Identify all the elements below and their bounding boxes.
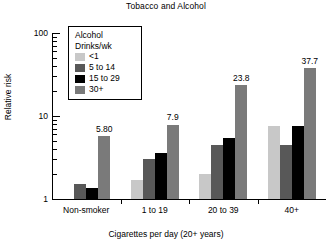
legend-item: 15 to 29 bbox=[75, 73, 141, 84]
bar bbox=[143, 159, 155, 199]
bar bbox=[211, 145, 223, 199]
chart-title: Tobacco and Alcohol bbox=[0, 1, 332, 11]
legend-title-line2: Drinks/wk bbox=[75, 41, 141, 52]
legend-item: 30+ bbox=[75, 84, 141, 95]
bar bbox=[292, 126, 304, 199]
legend-title-line1: Alcohol bbox=[75, 30, 141, 41]
x-tick bbox=[121, 200, 122, 204]
legend-label: 5 to 14 bbox=[89, 63, 115, 72]
x-axis-title: Cigarettes per day (20+ years) bbox=[0, 229, 332, 239]
bar bbox=[74, 184, 86, 199]
legend-swatch bbox=[75, 53, 85, 61]
x-tick bbox=[189, 200, 190, 204]
bar bbox=[235, 85, 247, 199]
y-tick bbox=[53, 199, 60, 200]
legend: Alcohol Drinks/wk <15 to 1415 to 2930+ bbox=[68, 26, 142, 100]
bar bbox=[155, 153, 167, 199]
bar bbox=[268, 126, 280, 199]
legend-entries: <15 to 1415 to 2930+ bbox=[75, 51, 141, 95]
bar bbox=[304, 68, 316, 199]
bar bbox=[131, 180, 143, 199]
legend-label: 15 to 29 bbox=[89, 74, 120, 83]
y-tick-label: 1 bbox=[20, 195, 48, 204]
y-axis-title: Relative risk bbox=[3, 57, 13, 137]
chart-figure: Tobacco and Alcohol 100101 Relative risk… bbox=[0, 0, 332, 248]
y-tick-label: 10 bbox=[20, 112, 48, 121]
legend-swatch bbox=[75, 86, 85, 94]
bar bbox=[199, 174, 211, 199]
bar bbox=[167, 125, 179, 200]
legend-item: 5 to 14 bbox=[75, 62, 141, 73]
y-tick-label: 100 bbox=[20, 29, 48, 38]
bar-value-label: 37.7 bbox=[301, 56, 318, 66]
bar bbox=[223, 138, 235, 199]
bar bbox=[98, 136, 110, 199]
legend-swatch bbox=[75, 64, 85, 72]
legend-label: 30+ bbox=[89, 85, 103, 94]
bar-value-label: 23.8 bbox=[233, 73, 250, 83]
x-category-label: 40+ bbox=[252, 205, 332, 215]
legend-item: <1 bbox=[75, 51, 141, 62]
legend-label: <1 bbox=[89, 52, 99, 61]
bar-value-label: 5.80 bbox=[96, 124, 113, 134]
x-tick bbox=[258, 200, 259, 204]
legend-swatch bbox=[75, 75, 85, 83]
bar bbox=[280, 145, 292, 199]
bar bbox=[86, 188, 98, 199]
bar-value-label: 7.9 bbox=[167, 112, 179, 122]
